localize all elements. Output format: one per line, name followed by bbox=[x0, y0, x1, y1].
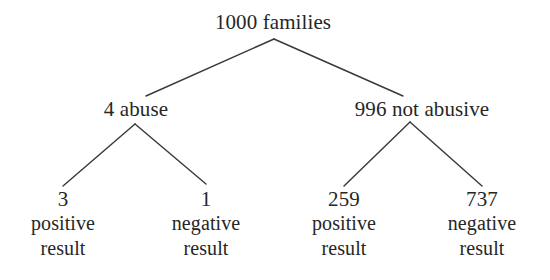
tree-leaf-not-abusive-positive: 259 positive result bbox=[312, 187, 376, 260]
leaf-outcome-line-1: positive bbox=[31, 211, 95, 235]
tree-node-abuse: 4 abuse bbox=[104, 97, 168, 122]
leaf-outcome-line-2: result bbox=[448, 236, 517, 260]
edge-not-abusive-to-negative bbox=[410, 122, 482, 186]
leaf-outcome-line-2: result bbox=[312, 236, 376, 260]
edge-abuse-to-positive bbox=[63, 124, 135, 186]
leaf-outcome-line-2: result bbox=[172, 236, 241, 260]
leaf-outcome-line-1: positive bbox=[312, 211, 376, 235]
edge-abuse-to-negative bbox=[135, 124, 206, 184]
leaf-count: 259 bbox=[312, 187, 376, 211]
leaf-outcome-line-1: negative bbox=[448, 211, 517, 235]
edge-not-abusive-to-positive bbox=[344, 122, 410, 186]
tree-node-not-abusive: 996 not abusive bbox=[355, 97, 489, 122]
probability-tree-diagram: 1000 families 4 abuse 996 not abusive 3 … bbox=[0, 0, 550, 280]
not-abusive-label: 996 not abusive bbox=[355, 97, 489, 121]
tree-node-root: 1000 families bbox=[215, 10, 331, 35]
leaf-outcome-line-2: result bbox=[31, 236, 95, 260]
leaf-count: 737 bbox=[448, 187, 517, 211]
tree-leaf-not-abusive-negative: 737 negative result bbox=[448, 187, 517, 260]
edge-root-to-not-abusive bbox=[274, 39, 403, 96]
leaf-count: 1 bbox=[172, 187, 241, 211]
edge-root-to-abuse bbox=[146, 39, 274, 96]
root-label: 1000 families bbox=[215, 10, 331, 34]
leaf-count: 3 bbox=[31, 187, 95, 211]
abuse-label: 4 abuse bbox=[104, 97, 168, 121]
tree-leaf-abuse-negative: 1 negative result bbox=[172, 187, 241, 260]
tree-leaf-abuse-positive: 3 positive result bbox=[31, 187, 95, 260]
leaf-outcome-line-1: negative bbox=[172, 211, 241, 235]
